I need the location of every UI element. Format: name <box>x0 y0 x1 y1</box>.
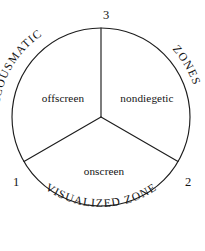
vertex-number-3: 3 <box>103 8 109 22</box>
sector-label-nondiegetic: nondiegetic <box>120 92 173 104</box>
sector-label-onscreen: onscreen <box>84 165 125 177</box>
zones-diagram: offscreen nondiegetic onscreen 1 2 3 ACO… <box>0 0 205 251</box>
sector-label-offscreen: offscreen <box>42 92 85 104</box>
diagram-canvas: offscreen nondiegetic onscreen 1 2 3 ACO… <box>0 0 205 251</box>
vertex-number-1: 1 <box>13 175 19 189</box>
vertex-number-2: 2 <box>185 175 191 189</box>
